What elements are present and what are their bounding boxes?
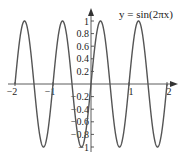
chart-title: y = sin(2πx) <box>119 8 173 21</box>
y-tick-label: 0.2 <box>77 66 90 77</box>
y-tick-label: 0.8 <box>77 28 90 39</box>
y-tick-label: 0.6 <box>77 41 90 52</box>
x-tick-label: −1 <box>45 86 56 97</box>
y-tick-label: 1 <box>84 16 89 27</box>
y-tick-label: 0.4 <box>77 53 90 64</box>
sine-chart: −2−11210.80.60.40.2−0.2−0.4−0.6−0.8−1 y … <box>0 0 181 158</box>
x-tick-label: −2 <box>7 86 18 97</box>
